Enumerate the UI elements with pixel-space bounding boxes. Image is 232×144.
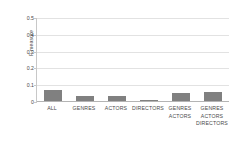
bar-slot [165,18,197,102]
y-axis-tick-label: 0.3 [18,49,34,55]
y-axis-tick-mark [34,18,37,19]
x-axis-tick-label: GENRESACTORS [164,105,196,120]
y-axis-tick-label: 0.2 [18,65,34,71]
x-axis-tick-label: GENRESACTORSDIRECTORS [196,105,228,128]
x-axis-tick-label-line: DIRECTORS [196,120,228,128]
x-axis-tick-label-line: ACTORS [100,105,132,113]
x-axis-tick-label-line: DIRECTORS [132,105,164,113]
y-axis-tick-mark [34,52,37,53]
x-axis-tick-label-line: GENRES [196,105,228,113]
bar-slot [37,18,69,102]
y-axis-tick-mark [34,35,37,36]
y-axis-tick-mark [34,68,37,69]
plot-area [36,18,229,102]
x-axis-tick-label: ALL [36,105,68,113]
x-axis-tick-label-line: ACTORS [196,113,228,121]
bar-slot [133,18,165,102]
x-axis-tick-label: ACTORS [100,105,132,113]
x-axis-tick-label-line: ALL [36,105,68,113]
x-axis-tick-label-line: GENRES [164,105,196,113]
bar-slot [101,18,133,102]
x-axis-line [37,101,229,102]
y-axis-tick-mark [34,85,37,86]
y-axis-tick-label: 0.1 [18,82,34,88]
bar-slot [69,18,101,102]
y-axis-tick-mark [34,102,37,103]
x-axis-tick-labels: ALLGENRESACTORSDIRECTORSGENRESACTORSGENR… [36,105,228,143]
x-axis-tick-label: DIRECTORS [132,105,164,113]
y-axis-tick-label: 0 [18,99,34,105]
y-axis-tick-label: 0.4 [18,32,34,38]
bar-slot [197,18,229,102]
y-axis-tick-labels: 0.50.40.30.20.10 [18,14,34,102]
bars-group [37,18,229,102]
y-axis-tick-label: 0.5 [18,15,34,21]
x-axis-tick-label: GENRES [68,105,100,113]
x-axis-tick-label-line: ACTORS [164,113,196,121]
x-axis-tick-label-line: GENRES [68,105,100,113]
bar-chart: F-measure 0.50.40.30.20.10 ALLGENRESACTO… [0,0,232,144]
